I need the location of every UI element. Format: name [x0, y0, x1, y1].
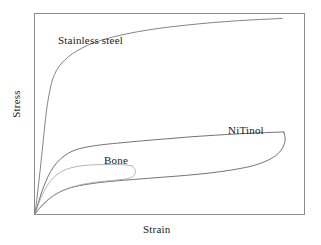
curve-label-stainless-steel: Stainless steel	[58, 34, 123, 46]
x-axis-label: Strain	[143, 223, 170, 235]
curve-label-bone: Bone	[104, 154, 128, 166]
plot-canvas	[0, 0, 321, 245]
stress-strain-figure: Stainless steel NiTinol Bone Stress Stra…	[0, 0, 321, 245]
curve-label-nitinol: NiTinol	[228, 124, 264, 136]
y-axis-label: Stress	[10, 81, 22, 127]
